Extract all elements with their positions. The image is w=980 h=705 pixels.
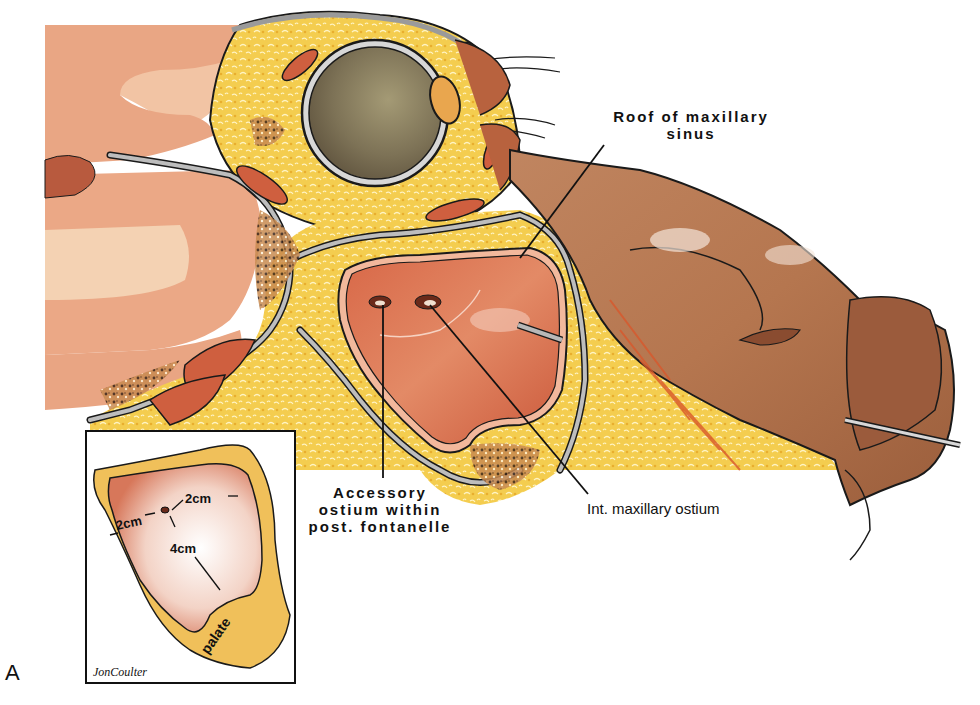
label-roof-line-1: Roof of maxillary [606,108,776,125]
label-accessory-line-1: Accessory [300,484,460,501]
label-roof-line-2: sinus [606,125,776,142]
label-int-maxillary-ostium: Int. maxillary ostium [587,500,720,517]
label-accessory-line-3: post. fontanelle [300,518,460,535]
anatomical-illustration: 2cm 2cm 4cm palate JonCoulter [0,0,980,705]
inset-diagram: 2cm 2cm 4cm palate JonCoulter [86,431,295,683]
figure-letter: A [5,660,20,686]
label-accessory-ostium: Accessory ostium within post. fontanelle [300,484,460,535]
artist-signature: JonCoulter [93,665,147,679]
inset-label-2cm-top: 2cm [185,491,211,506]
label-accessory-line-2: ostium within [300,501,460,518]
inset-label-4cm: 4cm [170,541,196,556]
label-roof-of-maxillary-sinus: Roof of maxillary sinus [606,108,776,142]
